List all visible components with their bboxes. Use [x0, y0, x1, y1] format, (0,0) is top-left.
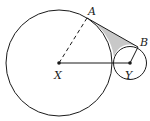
- geometry-diagram: A B X Y: [0, 0, 150, 121]
- label-x: X: [53, 69, 63, 82]
- radius-yb: [130, 47, 138, 63]
- label-y: Y: [125, 69, 134, 82]
- label-a: A: [87, 5, 96, 18]
- point-y: [128, 61, 132, 65]
- label-b: B: [139, 36, 148, 49]
- point-x: [57, 61, 61, 65]
- radius-xa-dashed: [59, 18, 87, 63]
